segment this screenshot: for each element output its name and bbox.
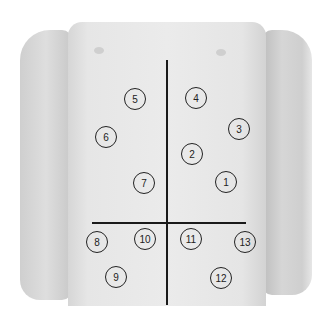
- region-marker-9: 9: [105, 266, 127, 288]
- torso-photograph: 12345678910111213: [0, 0, 331, 324]
- region-marker-8: 8: [86, 231, 108, 253]
- region-marker-1: 1: [215, 171, 237, 193]
- region-marker-13: 13: [234, 231, 256, 253]
- region-marker-3: 3: [228, 118, 250, 140]
- region-marker-2: 2: [181, 143, 203, 165]
- left-arm: [20, 30, 72, 300]
- right-arm: [262, 30, 312, 295]
- left-nipple: [94, 47, 104, 54]
- vertical-midline: [166, 60, 168, 305]
- region-marker-11: 11: [180, 228, 202, 250]
- region-marker-5: 5: [124, 88, 146, 110]
- region-marker-7: 7: [133, 172, 155, 194]
- region-marker-12: 12: [210, 267, 232, 289]
- horizontal-divider-line: [92, 222, 246, 224]
- region-marker-4: 4: [185, 87, 207, 109]
- region-marker-10: 10: [134, 228, 156, 250]
- region-marker-6: 6: [95, 126, 117, 148]
- right-nipple: [216, 49, 226, 56]
